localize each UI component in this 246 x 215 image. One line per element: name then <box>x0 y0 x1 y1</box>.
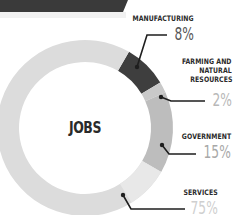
farming-callout-line <box>161 97 205 101</box>
farming-label-line1: FARMING AND <box>182 57 232 66</box>
farming-label-line2: NATURAL <box>199 66 232 75</box>
government-value: 15% <box>204 144 231 161</box>
government-label: GOVERNMENT <box>182 132 231 141</box>
manufacturing-label: MANUFACTURING <box>133 14 194 23</box>
services-callout-line <box>123 195 185 209</box>
chart-center-label: JOBS <box>62 118 107 137</box>
farming-value: 2% <box>213 92 232 109</box>
government-callout-line <box>162 145 196 154</box>
farming-label-line3: RESOURCES <box>190 75 232 84</box>
manufacturing-callout-line <box>137 35 167 67</box>
services-value: 75% <box>191 200 218 215</box>
manufacturing-value: 8% <box>175 26 194 43</box>
services-label: SERVICES <box>184 188 218 197</box>
callout-lines <box>0 0 246 215</box>
